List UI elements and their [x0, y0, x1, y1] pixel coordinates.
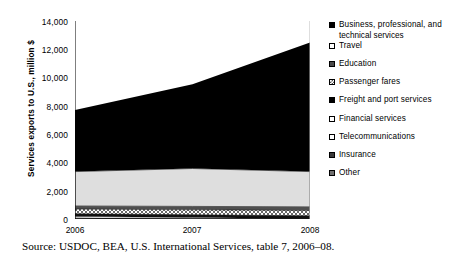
area-travel: [75, 169, 310, 207]
legend-label: Education: [339, 59, 376, 69]
legend-item-other[interactable]: Other: [329, 168, 469, 178]
x-tick-label-2006: 2006: [47, 225, 103, 235]
legend-swatch-icon: [329, 79, 335, 85]
legend-item-freight-and-port-services[interactable]: Freight and port services: [329, 95, 469, 105]
legend-label: Financial services: [339, 114, 406, 124]
legend-swatch-icon: [329, 152, 335, 158]
y-tick-label: 8,000: [24, 102, 68, 112]
y-tick-label: 14,000: [24, 17, 68, 27]
x-tick-label-2007: 2007: [164, 225, 220, 235]
legend-label: Other: [339, 168, 360, 178]
legend-label: Telecommunications: [339, 132, 415, 142]
legend-item-financial-services[interactable]: Financial services: [329, 114, 469, 124]
area-business-professional-technical: [75, 43, 310, 172]
legend-label: Freight and port services: [339, 95, 432, 105]
legend-label-continuation: technical services: [329, 31, 469, 41]
y-tick-label: 0: [24, 215, 68, 225]
legend-item-telecommunications[interactable]: Telecommunications: [329, 132, 469, 142]
y-tick-label: 10,000: [24, 73, 68, 83]
legend-item-travel[interactable]: Travel: [329, 41, 469, 51]
legend-label: Insurance: [339, 150, 376, 160]
y-tick-label: 12,000: [24, 45, 68, 55]
legend-swatch-icon: [329, 43, 335, 49]
plot-area: [75, 21, 310, 219]
chart-legend: Business, professional, and technical se…: [329, 20, 469, 186]
y-tick-label: 2,000: [24, 187, 68, 197]
legend-label: Business, professional, and: [339, 20, 442, 30]
legend-swatch-icon: [329, 170, 335, 176]
legend-swatch-icon: [329, 61, 335, 67]
legend-item-insurance[interactable]: Insurance: [329, 150, 469, 160]
y-tick-label: 4,000: [24, 158, 68, 168]
legend-item-education[interactable]: Education: [329, 59, 469, 69]
legend-item-business-professional-technical[interactable]: Business, professional, and: [329, 20, 469, 30]
legend-swatch-icon: [329, 22, 335, 28]
legend-swatch-icon: [329, 134, 335, 140]
source-note: Source: USDOC, BEA, U.S. International S…: [22, 240, 334, 252]
legend-label: Passenger fares: [339, 77, 400, 87]
legend-swatch-icon: [329, 97, 335, 103]
legend-item-passenger-fares[interactable]: Passenger fares: [329, 77, 469, 87]
legend-label: Travel: [339, 41, 362, 51]
chart-figure: Services exports to U.S., million $ 14,0…: [0, 0, 471, 260]
legend-swatch-icon: [329, 116, 335, 122]
x-tick-label-2008: 2008: [282, 225, 338, 235]
y-tick-label: 6,000: [24, 130, 68, 140]
stacked-area-svg: [75, 21, 310, 219]
